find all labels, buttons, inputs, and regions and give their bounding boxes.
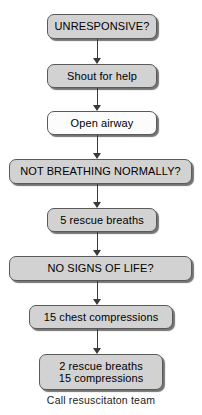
- node-fifteen-chest-compressions-label: 15 chest compressions: [34, 311, 168, 323]
- node-cycle-label-line2: 15 compressions: [44, 372, 158, 384]
- arrow-stem: [97, 39, 98, 58]
- arrow-open-airway-to-not-breathing: [93, 135, 102, 159]
- flowchart-diagram: UNRESPONSIVE? Shout for help Open airway…: [0, 0, 202, 415]
- arrowhead-icon: [93, 105, 101, 111]
- node-cycle-label-line1: 2 rescue breaths: [59, 360, 143, 372]
- arrow-rescue-breaths-to-no-signs: [93, 232, 102, 256]
- node-five-rescue-breaths: 5 rescue breaths: [47, 208, 157, 232]
- node-two-breaths-fifteen-compressions: 2 rescue breaths 15 compressions: [39, 354, 163, 390]
- arrow-stem: [97, 184, 98, 202]
- node-not-breathing-normally: NOT BREATHING NORMALLY?: [9, 159, 192, 184]
- node-not-breathing-normally-label: NOT BREATHING NORMALLY?: [14, 165, 187, 177]
- arrowhead-icon: [93, 202, 101, 208]
- arrow-stem: [97, 135, 98, 153]
- arrow-stem: [97, 232, 98, 250]
- node-five-rescue-breaths-label: 5 rescue breaths: [52, 214, 152, 226]
- arrowhead-icon: [93, 58, 101, 64]
- arrow-not-breathing-to-rescue-breaths: [93, 184, 102, 208]
- node-two-breaths-fifteen-compressions-label: 2 rescue breaths 15 compressions: [44, 360, 158, 385]
- arrow-stem: [97, 329, 98, 348]
- arrowhead-icon: [93, 153, 101, 159]
- node-no-signs-of-life-label: NO SIGNS OF LIFE?: [14, 262, 187, 274]
- node-open-airway: Open airway: [47, 111, 157, 135]
- arrowhead-icon: [93, 250, 101, 256]
- node-open-airway-label: Open airway: [52, 117, 152, 129]
- node-shout-for-help-label: Shout for help: [52, 70, 152, 82]
- arrowhead-icon: [93, 299, 101, 305]
- node-unresponsive: UNRESPONSIVE?: [47, 14, 157, 39]
- node-no-signs-of-life: NO SIGNS OF LIFE?: [9, 256, 192, 281]
- node-unresponsive-label: UNRESPONSIVE?: [52, 20, 152, 32]
- arrow-no-signs-to-chest-compressions: [93, 281, 102, 305]
- arrow-stem: [97, 281, 98, 299]
- node-shout-for-help: Shout for help: [47, 64, 157, 88]
- diagram-caption: Call resuscitaton team: [0, 394, 202, 406]
- node-fifteen-chest-compressions: 15 chest compressions: [29, 305, 173, 329]
- arrowhead-icon: [93, 348, 101, 354]
- arrow-compressions-to-breaths-cycle: [93, 329, 102, 354]
- arrow-stem: [97, 88, 98, 105]
- arrow-unresponsive-to-shout: [93, 39, 102, 64]
- arrow-shout-to-open-airway: [93, 88, 102, 111]
